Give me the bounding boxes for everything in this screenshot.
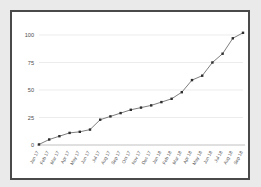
gridlines xyxy=(39,35,243,118)
data-point-marker xyxy=(181,91,183,93)
y-axis-ticks: 0255075100 xyxy=(25,32,34,148)
data-point-marker xyxy=(38,143,40,145)
x-tick-label: Sep 18 xyxy=(233,150,244,166)
x-tick-label: Jul 17 xyxy=(91,150,101,164)
data-point-marker xyxy=(170,98,172,100)
y-tick-label: 50 xyxy=(28,87,34,93)
data-point-marker xyxy=(89,128,91,130)
x-axis-ticks: Jan 17Feb 17Mar 17Apr 17May 17Jun 17Jul … xyxy=(29,150,244,166)
data-point-marker xyxy=(68,132,70,134)
data-point-marker xyxy=(99,119,101,121)
data-point-marker xyxy=(232,37,234,39)
chart-screenshot: 0255075100 Jan 17Feb 17Mar 17Apr 17May 1… xyxy=(0,0,261,187)
x-tick-label: Mar 18 xyxy=(172,150,183,165)
data-point-marker xyxy=(130,109,132,111)
data-point-marker xyxy=(79,131,81,133)
y-tick-label: 75 xyxy=(28,60,34,66)
x-tick-label: May 17 xyxy=(69,150,81,166)
data-point-marker xyxy=(140,106,142,108)
y-tick-label: 0 xyxy=(31,142,34,148)
data-point-marker xyxy=(58,135,60,137)
y-tick-label: 100 xyxy=(25,32,34,38)
x-tick-label: Jun 17 xyxy=(80,150,91,165)
x-tick-label: Mar 17 xyxy=(49,150,60,165)
x-tick-label: Jun 18 xyxy=(202,150,213,165)
y-tick-label: 25 xyxy=(28,115,34,121)
data-point-marker xyxy=(109,115,111,117)
x-tick-label: Sep 17 xyxy=(110,150,121,166)
data-point-marker xyxy=(48,138,50,140)
data-point-marker xyxy=(221,53,223,55)
data-point-marker xyxy=(150,104,152,106)
data-point-marker xyxy=(119,112,121,114)
data-point-marker xyxy=(242,32,244,34)
data-point-marker xyxy=(191,79,193,81)
x-tick-label: May 18 xyxy=(192,150,204,166)
series-path xyxy=(39,33,243,145)
series-markers xyxy=(38,32,244,146)
data-point-marker xyxy=(211,61,213,63)
chart-frame: 0255075100 Jan 17Feb 17Mar 17Apr 17May 1… xyxy=(10,10,250,180)
plot-area: 0255075100 Jan 17Feb 17Mar 17Apr 17May 1… xyxy=(12,12,248,178)
data-point-marker xyxy=(160,101,162,103)
series-line xyxy=(39,33,243,145)
line-chart: 0255075100 Jan 17Feb 17Mar 17Apr 17May 1… xyxy=(12,12,248,178)
data-point-marker xyxy=(201,75,203,77)
x-tick-label: Jul 18 xyxy=(213,150,223,164)
